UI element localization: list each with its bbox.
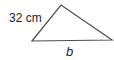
base-label: b <box>66 45 73 58</box>
side-length-label: 32 cm <box>9 12 42 24</box>
triangle-figure <box>0 0 114 60</box>
triangle <box>32 5 112 41</box>
